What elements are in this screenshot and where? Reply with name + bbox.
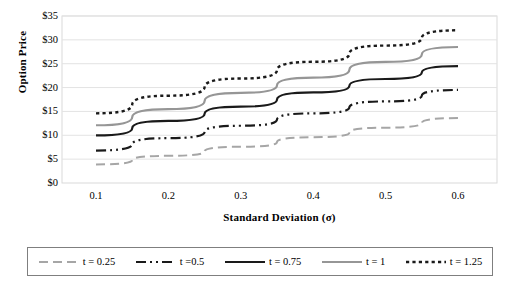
- chart-legend: t = 0.25t =0.5t = 0.75t = 1t = 1.25: [27, 247, 493, 276]
- option-price-line-chart: Option Price Standard Deviation (σ) $0$5…: [0, 0, 522, 283]
- plot-canvas: [0, 0, 522, 283]
- legend-line-swatch: [405, 256, 447, 268]
- legend-item[interactable]: t = 0.75: [224, 256, 301, 268]
- legend-item-label: t = 0.75: [269, 256, 301, 267]
- legend-item[interactable]: t = 1.25: [405, 256, 482, 268]
- legend-item-label: t =0.5: [180, 256, 205, 267]
- legend-item-label: t = 1.25: [450, 256, 482, 267]
- legend-item-label: t = 0.25: [83, 256, 115, 267]
- legend-line-swatch: [224, 256, 266, 268]
- legend-item[interactable]: t =0.5: [135, 256, 205, 268]
- plot-area-frame: [62, 16, 497, 183]
- legend-item[interactable]: t = 0.25: [38, 256, 115, 268]
- legend-item-label: t = 1: [366, 256, 385, 267]
- legend-line-swatch: [321, 256, 363, 268]
- legend-item[interactable]: t = 1: [321, 256, 385, 268]
- legend-line-swatch: [38, 256, 80, 268]
- legend-items-row: t = 0.25t =0.5t = 0.75t = 1t = 1.25: [28, 248, 492, 275]
- legend-line-swatch: [135, 256, 177, 268]
